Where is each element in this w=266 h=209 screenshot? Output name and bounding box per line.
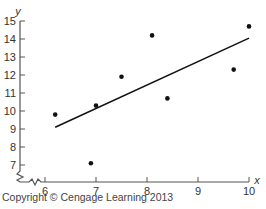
data-point [119,75,124,80]
regression-line [55,38,249,127]
axes: 789101112131415678910yx [4,5,261,197]
y-axis-label: y [14,5,22,17]
x-axis [20,179,249,185]
data-point [247,24,252,29]
y-tick-label: 13 [4,51,16,63]
x-tick-label: 9 [195,185,201,197]
y-tick-label: 12 [4,69,16,81]
data-point [150,33,155,38]
y-tick-label: 7 [10,159,16,171]
data-points [53,24,251,165]
y-tick-label: 9 [10,123,16,135]
regression-line-path [55,38,249,127]
data-point [231,67,236,72]
y-tick-label: 10 [4,105,16,117]
x-tick-label: 10 [243,185,255,197]
y-tick-label: 15 [4,15,16,27]
scatter-plot: 789101112131415678910yx [0,0,266,209]
data-point [94,103,99,108]
x-axis-label: x [253,174,260,186]
copyright-text: Copyright © Cengage Learning 2013 [2,191,173,203]
y-tick-label: 11 [5,87,16,99]
y-axis [17,21,23,182]
y-tick-label: 14 [4,33,16,45]
y-tick-label: 8 [10,141,16,153]
data-point [165,96,170,101]
data-point [53,112,58,117]
data-point [89,161,94,166]
